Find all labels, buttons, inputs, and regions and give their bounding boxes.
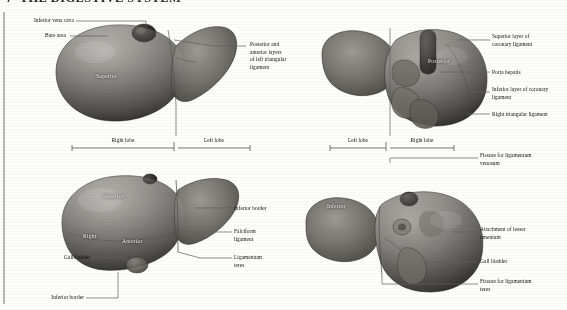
bracket-label-right-lobe-p1: Right lobe: [94, 137, 152, 145]
label-line-1: Ligamentum: [234, 254, 296, 262]
anatomy-plate: 7THE DIGESTIVE SYSTEM: [0, 0, 567, 310]
label-right-triangular-ligament: Right triangular ligament: [492, 111, 567, 119]
label-line-2: anterior layers: [250, 49, 312, 57]
label-line-2: ligament: [492, 94, 567, 102]
label-line-1: Fissure for ligamentum: [480, 152, 562, 160]
label-gallbladder: Gallbladder: [4, 254, 90, 262]
label-inferior-border-p3-left: Inferior border: [4, 294, 84, 302]
label-falciform-ligament: Falciform ligament: [234, 228, 296, 243]
label-line-1: Fissure for ligamentum: [480, 278, 564, 286]
label-line-1: Inferior layer of coronary: [492, 86, 567, 94]
label-line-1: Posterior and: [250, 41, 312, 49]
bracket-label-left-lobe-p2: Left lobe: [332, 137, 384, 145]
label-fissure-ligamentum-teres: Fissure for ligamentum teres: [480, 278, 564, 293]
organ-label-anterior-p3: Anterior: [122, 238, 143, 244]
label-line-1: Attachment of lesser: [480, 226, 562, 234]
organ-label-superior-p3: Superior: [103, 193, 124, 199]
label-line-2: ligament: [234, 236, 296, 244]
label-inferior-layer-coronary: Inferior layer of coronary ligament: [492, 86, 567, 101]
label-line-4: ligament: [250, 64, 312, 72]
organ-label-superior-p1: Superior: [96, 73, 117, 79]
label-inferior-vena-cava: Inferior vena cava: [4, 17, 74, 25]
label-fissure-ligamentum-venosum: Fissure for ligamentum venosum: [480, 152, 562, 167]
organ-label-posterior-p2: Posterior: [428, 58, 450, 64]
organ-superior-view: [56, 24, 237, 121]
label-ligamentum-teres: Ligamentum teres: [234, 254, 296, 269]
label-line-1: Superior layer of: [492, 33, 566, 41]
bracket-label-left-lobe-p1: Left lobe: [188, 137, 240, 145]
label-superior-layer-coronary: Superior layer of coronary ligament: [492, 33, 566, 48]
organ-label-right-p3: Right: [83, 233, 96, 239]
label-bare-area: Bare area: [4, 32, 66, 40]
label-line-3: of left triangular: [250, 56, 312, 64]
organ-posterior-view: [322, 30, 487, 129]
label-line-2: venosum: [480, 160, 562, 168]
label-line-2: omentum: [480, 234, 562, 242]
bracket-label-right-lobe-p2: Right lobe: [396, 137, 448, 145]
label-attachment-lesser-omentum: Attachment of lesser omentum: [480, 226, 562, 241]
label-line-2: teres: [480, 286, 564, 294]
label-porta-hepatis: Porta hepatis: [492, 69, 566, 77]
label-inferior-border-p3: Inferior border: [234, 205, 296, 213]
label-gall-bladder-p4: Gall bladder: [480, 258, 562, 266]
label-line-2: teres: [234, 262, 296, 270]
label-line-2: coronary ligament: [492, 41, 566, 49]
organ-label-inferior-p4: Inferior: [327, 203, 346, 209]
label-posterior-anterior-layers: Posterior and anterior layers of left tr…: [250, 41, 312, 72]
label-line-1: Falciform: [234, 228, 296, 236]
